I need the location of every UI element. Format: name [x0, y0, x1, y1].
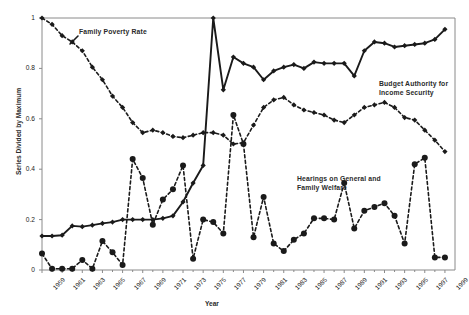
y-tick-label: 0.8: [13, 64, 35, 71]
y-tick-label: 0.6: [13, 115, 35, 122]
y-tick-label: 1: [13, 14, 35, 21]
y-axis-title: Series Divided by Maximum: [15, 72, 22, 192]
series-label-budget-authority: Budget Authority for Income Security: [379, 79, 448, 97]
y-tick-label: 0.4: [13, 165, 35, 172]
series-label-hearings: Hearings on General and Family Welfare: [297, 174, 381, 192]
series-label-family-poverty-rate: Family Poverty Rate: [79, 27, 147, 36]
series-hearings-on-general-and-family-welfare: [39, 112, 448, 272]
x-axis-title: Year: [205, 300, 219, 307]
y-tick-label: 0.2: [13, 216, 35, 223]
y-tick-label: 0: [13, 266, 35, 273]
